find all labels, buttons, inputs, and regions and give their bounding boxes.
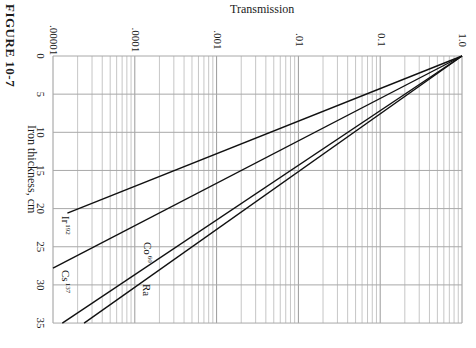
series-label: Ir192 [60,216,72,235]
transmission-tick-label: .01 [294,33,306,47]
thickness-tick-label: 15 [35,165,47,177]
chart-plot: .00001.0001.001.010.11.005101520253035 I… [0,0,476,348]
series-label: Co60 [142,242,154,263]
transmission-tick-label: .00001 [48,25,60,55]
series-line-cs-137 [53,56,462,268]
transmission-tick-label: 1.0 [457,33,469,47]
thickness-tick-label: 5 [35,91,47,97]
transmission-tick-label: .0001 [130,28,142,53]
grid-lines [53,56,462,323]
thickness-tick-label: 10 [35,127,47,139]
thickness-tick-label: 30 [35,279,47,291]
thickness-tick-label: 25 [35,241,47,253]
series-label: Cs137 [60,270,72,294]
transmission-tick-label: .001 [212,30,224,49]
thickness-tick-label: 0 [35,53,47,59]
tick-labels: .00001.0001.001.010.11.005101520253035 [35,25,469,329]
thickness-tick-label: 20 [35,203,47,215]
series-line-ra [84,56,462,323]
data-lines [53,56,462,323]
thickness-tick-label: 35 [35,318,47,330]
transmission-tick-label: 0.1 [376,33,388,47]
series-label: Ra [141,284,153,296]
